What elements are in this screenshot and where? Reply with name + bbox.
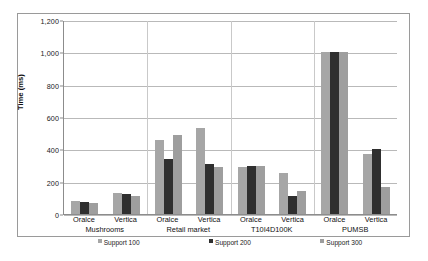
bar-retail-market-vertica-support-300: [214, 167, 223, 214]
dataset-group-t10i4d100k: [231, 21, 314, 214]
system-bars-oralce: [231, 21, 273, 214]
dataset-group-mushrooms: [64, 21, 147, 214]
bar-mushrooms-oralce-support-300: [89, 203, 98, 214]
legend-item-support-200[interactable]: Support 200: [174, 236, 285, 248]
bar-pumsb-oralce-support-100: [321, 52, 330, 214]
bar-retail-market-oralce-support-100: [155, 140, 164, 214]
x-tick-label-system: Oralce: [147, 215, 189, 224]
plot-area: [63, 21, 397, 215]
bar-mushrooms-vertica-support-100: [113, 193, 122, 214]
bar-t10i4d100k-vertica-support-200: [288, 196, 297, 214]
legend-swatch-support-100: [98, 239, 102, 243]
x-tick-label-dataset: PUMSB: [314, 225, 398, 234]
x-tick-label-system: Vertica: [105, 215, 147, 224]
system-bars-vertica: [189, 21, 231, 214]
legend-swatch-support-300: [320, 239, 324, 243]
legend-item-support-100[interactable]: Support 100: [63, 236, 174, 248]
bar-retail-market-vertica-support-200: [205, 164, 214, 214]
bar-mushrooms-vertica-support-200: [122, 194, 131, 214]
legend-label: Support 300: [326, 239, 362, 246]
x-tick-label-system: Vertica: [272, 215, 314, 224]
x-tick-label-system: Oralce: [230, 215, 272, 224]
bar-pumsb-oralce-support-200: [330, 52, 339, 214]
y-tick-label: 0: [55, 211, 59, 220]
x-tick-label-system: Oralce: [63, 215, 105, 224]
bar-pumsb-vertica-support-200: [372, 149, 381, 214]
y-tick-label: 1,200: [41, 17, 60, 26]
bar-mushrooms-oralce-support-200: [80, 202, 89, 214]
legend-label: Support 200: [215, 239, 251, 246]
y-tick-label: 600: [47, 114, 59, 123]
system-bars-vertica: [106, 21, 148, 214]
bar-t10i4d100k-oralce-support-200: [247, 166, 256, 215]
y-axis: 1,2001,0008006004002000: [18, 21, 63, 215]
bar-t10i4d100k-vertica-support-300: [297, 191, 306, 214]
bar-retail-market-oralce-support-200: [164, 159, 173, 214]
bar-t10i4d100k-vertica-support-100: [279, 173, 288, 214]
y-tick-label: 200: [47, 178, 59, 187]
bar-t10i4d100k-oralce-support-100: [238, 167, 247, 214]
y-tick-label: 800: [47, 81, 59, 90]
x-tick-label-system: Vertica: [355, 215, 397, 224]
x-tick-label-dataset: Mushrooms: [63, 225, 147, 234]
dataset-group-retail-market: [147, 21, 230, 214]
figure-root: Time (ms) 1,2001,0008006004002000 Oralce…: [0, 0, 428, 261]
legend-item-support-300[interactable]: Support 300: [286, 236, 397, 248]
legend-swatch-support-200: [209, 239, 213, 243]
bar-groups: [64, 21, 397, 214]
system-bars-vertica: [272, 21, 314, 214]
system-bars-oralce: [64, 21, 106, 214]
x-tick-label-system: Vertica: [188, 215, 230, 224]
bar-mushrooms-oralce-support-100: [71, 201, 80, 214]
x-tick-label-system: Oralce: [314, 215, 356, 224]
bar-pumsb-oralce-support-300: [339, 52, 348, 214]
system-bars-oralce: [147, 21, 189, 214]
bar-retail-market-vertica-support-100: [196, 128, 205, 214]
system-bars-vertica: [355, 21, 397, 214]
y-tick-label: 400: [47, 146, 59, 155]
y-tick-label: 1,000: [41, 49, 60, 58]
bar-pumsb-vertica-support-100: [363, 154, 372, 214]
chart-legend: Support 100Support 200Support 300: [63, 236, 397, 248]
chart-frame: Time (ms) 1,2001,0008006004002000 Oralce…: [17, 13, 410, 237]
x-tick-label-dataset: Retail market: [147, 225, 231, 234]
x-tick-label-dataset: T10I4D100K: [230, 225, 314, 234]
bar-t10i4d100k-oralce-support-300: [256, 166, 265, 214]
bar-mushrooms-vertica-support-300: [131, 196, 140, 214]
bar-pumsb-vertica-support-300: [381, 187, 390, 214]
legend-label: Support 100: [104, 239, 140, 246]
bar-retail-market-oralce-support-300: [173, 135, 182, 214]
dataset-group-pumsb: [314, 21, 397, 214]
system-bars-oralce: [314, 21, 356, 214]
